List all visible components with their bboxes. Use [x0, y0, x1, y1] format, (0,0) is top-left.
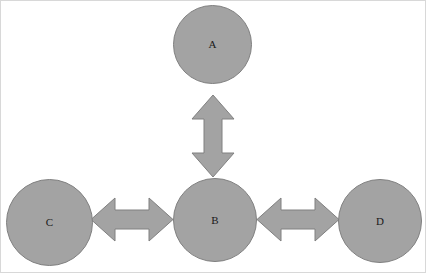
connector-b-d-double-arrow[interactable] [256, 197, 340, 242]
connector-b-d-shape [256, 197, 340, 242]
node-a[interactable]: A [173, 5, 252, 84]
connector-c-b-double-arrow[interactable] [90, 197, 174, 242]
node-b-label: B [211, 215, 218, 226]
node-d-label: D [376, 216, 384, 227]
connector-a-b-double-arrow[interactable] [191, 94, 235, 178]
node-a-label: A [209, 39, 217, 50]
connector-a-b-shape [191, 94, 235, 178]
node-d[interactable]: D [338, 179, 422, 263]
diagram-canvas: A B C D [0, 0, 426, 273]
node-c-label: C [46, 217, 53, 228]
node-c[interactable]: C [6, 179, 93, 266]
node-b[interactable]: B [173, 178, 257, 262]
connector-c-b-shape [90, 197, 174, 242]
